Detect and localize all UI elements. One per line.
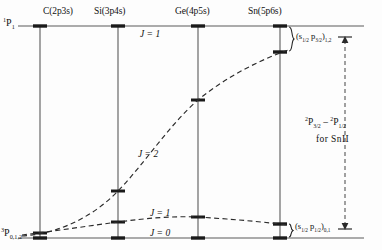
splitting-mult-2: 2 — [330, 116, 333, 122]
splitting-for-label: for SnII — [316, 135, 349, 145]
j-label-j1-lower: J = 1 — [150, 209, 170, 219]
splitting-mult-1: 2 — [305, 116, 308, 122]
upper-splitting-brace — [289, 27, 294, 51]
column-header-si: Si(3p4s) — [94, 7, 125, 17]
lower-config-label: (s1/2 p1/2)0,1 — [295, 222, 330, 231]
column-header-sn: Sn(5p6s) — [248, 7, 282, 17]
j-label-j2: J = 2 — [138, 150, 158, 160]
term-symbol-singlet-p1: 1P1 — [3, 18, 15, 28]
j-label-upper: J = 1 — [140, 30, 160, 40]
lower-splitting-brace — [289, 224, 293, 237]
upper-config-label: (s1/2 p3/2)1,2 — [296, 32, 331, 41]
column-header-c: C(2p3s) — [43, 7, 73, 17]
term-j-lower: 0,1,2 — [10, 233, 22, 240]
term-j-upper: 1 — [12, 23, 15, 30]
term-symbol-triplet-p012: 3P0,1,2 — [1, 228, 22, 238]
splitting-expression-label: 2P3/2 – 2P1/2 — [305, 118, 346, 128]
j-label-j0: J = 0 — [150, 229, 170, 239]
lower-config-text: (s1/2 p1/2)0,1 — [295, 221, 330, 231]
figure-canvas: C(2p3s) Si(3p4s) Ge(4p5s) Sn(5p6s) 1P1 3… — [0, 0, 382, 250]
column-header-ge: Ge(4p5s) — [175, 7, 210, 17]
upper-config-text: (s1/2 p3/2)1,2 — [296, 31, 331, 41]
